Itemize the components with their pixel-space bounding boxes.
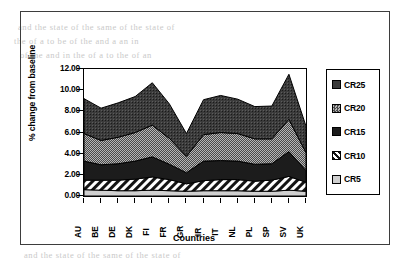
x-tick-mark [288,198,289,203]
legend-item-cr10[interactable]: CR10 [332,151,379,161]
plot-area [83,68,307,197]
y-tick-mark [77,153,83,154]
legend-label: CR10 [344,151,365,161]
x-axis-title: Countries [83,233,305,243]
y-tick-mark [77,110,83,111]
x-tick-mark [83,198,84,203]
x-tick-mark [100,198,101,203]
x-tick-mark [237,198,238,203]
legend-item-cr15[interactable]: CR15 [332,127,379,137]
stacked-area-series [84,69,306,196]
legend-label: CR15 [344,127,365,137]
x-tick-label-au: AU [73,226,83,238]
legend-swatch-icon [332,104,341,113]
legend-label: CR25 [344,80,365,90]
x-tick-mark [203,198,204,203]
chart-legend: CR25CR20CR15CR10CR5 [326,69,380,195]
legend-swatch-icon [332,175,341,184]
x-tick-mark [168,198,169,203]
legend-label: CR20 [344,103,365,113]
x-axis-tick-labels: AUBEDEDKFIFRGRIRITNLPLSPSVUK [83,198,305,232]
y-tick-mark [77,195,83,196]
x-tick-mark [185,198,186,203]
legend-item-cr20[interactable]: CR20 [332,103,379,113]
y-tick-mark [77,174,83,175]
x-tick-mark [117,198,118,203]
legend-item-cr5[interactable]: CR5 [332,174,379,184]
legend-swatch-icon [332,127,341,136]
legend-swatch-icon [332,151,341,160]
x-tick-mark [151,198,152,203]
y-tick-mark [77,89,83,90]
y-axis-title: % change from baseline [27,33,37,153]
x-tick-mark [134,198,135,203]
y-axis-tick-labels: 0.002.004.006.008.0010.0012.00 [44,63,80,195]
legend-label: CR5 [344,174,361,184]
y-tick-mark [77,68,83,69]
x-tick-mark [220,198,221,203]
x-tick-mark [271,198,272,203]
y-tick-mark [77,132,83,133]
legend-swatch-icon [332,80,341,89]
x-tick-mark [305,198,306,203]
x-tick-mark [254,198,255,203]
legend-item-cr25[interactable]: CR25 [332,80,379,90]
